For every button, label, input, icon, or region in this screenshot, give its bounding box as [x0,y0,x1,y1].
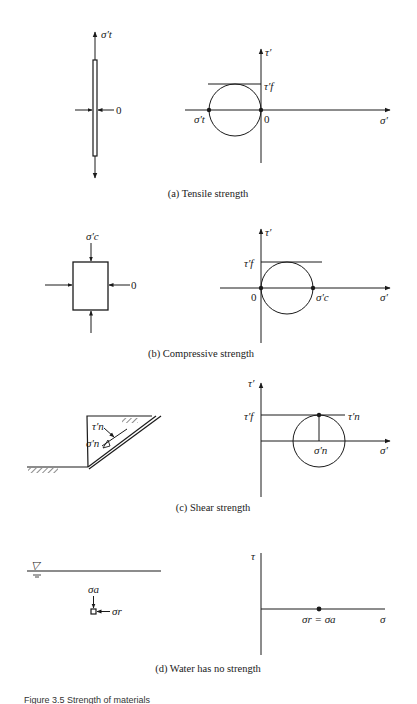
panel-c-sigma-axis-label: σ′ [380,444,388,456]
water-table-icon: ▽ [31,559,42,571]
panel-a-point-right-label: 0 [264,113,270,125]
panel-d-tau-axis-label: τ [251,550,256,562]
panel-b-point-left-label: 0 [251,291,257,303]
panel-b-specimen [45,243,130,333]
panel-c-point-label: σ′n [314,444,328,456]
panel-d-point-label: σr = σa [302,613,336,625]
point-circle [317,607,322,612]
panel-a-point-left-label: σ′t [194,113,206,125]
panel-a-mohr-diagram [185,49,390,163]
tensile-strength-point [207,108,211,112]
panel-b-point-right-label: σ′c [316,291,329,303]
panel-b-tau-axis-label: τ′ [265,226,272,238]
panel-b-mohr-diagram [220,229,390,343]
panel-d-sigma-axis-label: σ [380,613,386,625]
panel-a-tangent-label: τ′f [264,80,275,92]
panel-d-horizontal-stress-label: σr [112,605,122,617]
panel-c-caption: (c) Shear strength [176,502,251,514]
panel-d-vertical-stress-label: σa [88,583,99,595]
panel-c-tangent-label: τ′f [244,410,255,422]
panel-a-sigma-axis-label: σ′ [380,114,388,126]
panel-b-compressive-stress-label: σ′c [86,230,99,242]
panel-b-sigma-axis-label: σ′ [380,291,388,303]
panel-b-tangent-label: τ′f [244,257,255,269]
panel-a-tensile-stress-label: σ′t [101,28,113,40]
failure-point [317,413,321,417]
panel-c-shear-stress-label: τ′n [92,420,104,432]
panel-a-specimen [75,32,114,178]
figure-canvas: σ′t 0 τ′ σ′ τ′f σ′t 0 (a) Tensile streng… [0,0,417,704]
origin-point [259,108,263,112]
panel-c-normal-stress-label: σ′n [86,437,100,449]
origin-point [259,286,263,290]
panel-a-tau-axis-label: τ′ [265,46,272,58]
compressive-strength-point [311,286,315,290]
panel-c-tangent-end-label: τ′n [348,410,360,422]
panel-d-caption: (d) Water has no strength [155,663,261,675]
panel-d-mohr-diagram [261,553,385,655]
figure-caption: Figure 3.5 Strength of materials [24,695,151,704]
panel-c-tau-axis-label: τ′ [248,377,255,389]
panel-b-caption: (b) Compressive strength [148,348,255,360]
panel-a-lateral-stress-label: 0 [116,104,122,116]
panel-c-mohr-diagram [261,383,390,497]
panel-a-caption: (a) Tensile strength [168,188,249,200]
panel-b-lateral-stress-label: 0 [131,279,137,291]
